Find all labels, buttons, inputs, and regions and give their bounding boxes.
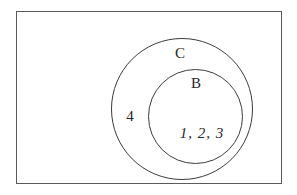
- universal-set-rectangle: C B 4 1, 2, 3: [16, 11, 282, 184]
- region-element-label: 4: [126, 109, 134, 124]
- set-b-label: B: [191, 76, 201, 91]
- set-c-label: C: [175, 46, 185, 61]
- diagram-canvas: C B 4 1, 2, 3: [0, 0, 297, 195]
- set-b-elements-label: 1, 2, 3: [180, 126, 225, 141]
